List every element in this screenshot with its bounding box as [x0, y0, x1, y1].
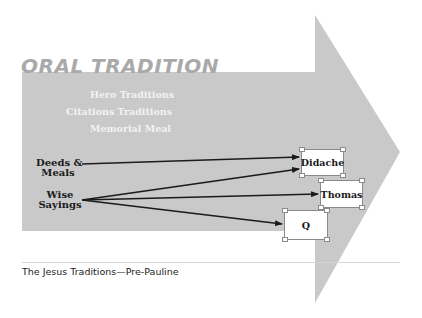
oral-tradition-diagram: ORAL TRADITION Hero Traditions Citations… [0, 0, 422, 318]
document-box-thomas: Thomas [320, 180, 363, 208]
document-box-q: Q [284, 210, 328, 240]
diagram-title: ORAL TRADITION [21, 54, 219, 78]
document-label: Didache [301, 157, 344, 168]
source-line: Meals [36, 168, 80, 178]
source-deeds-meals: Deeds & Meals [36, 158, 80, 178]
tradition-label: Hero Traditions [90, 89, 174, 100]
source-line: Sayings [38, 200, 82, 210]
caption-divider [22, 262, 400, 263]
tradition-label: Citations Traditions [66, 106, 172, 117]
document-label: Q [302, 220, 310, 231]
document-label: Thomas [321, 189, 363, 200]
tradition-label: Memorial Meal [90, 123, 171, 134]
source-wise-sayings: Wise Sayings [38, 190, 82, 210]
document-box-didache: Didache [301, 149, 344, 176]
figure-caption: The Jesus Traditions—Pre-Pauline [22, 266, 179, 277]
